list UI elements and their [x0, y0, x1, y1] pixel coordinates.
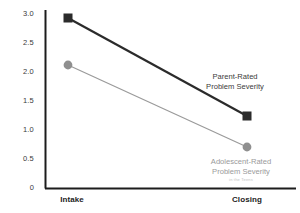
data-point-adolescent-closing [243, 143, 252, 152]
data-point-parent-closing [243, 112, 252, 121]
adolescent-annotation-line2: Problem Severity [190, 167, 292, 177]
y-tick-label-3.0: 3.0 [8, 10, 34, 18]
parent-annotation-line1: Parent-Rated [185, 72, 285, 82]
y-tick-label-1.5: 1.5 [8, 97, 34, 105]
y-tick-label-0: 0 [8, 184, 34, 192]
data-point-adolescent-intake [64, 61, 73, 70]
y-tick-label-1.0: 1.0 [8, 126, 34, 134]
data-point-parent-intake [64, 14, 73, 23]
y-tick-label-0.5: 0.5 [8, 155, 34, 163]
parent-rated-annotation: Parent-Rated Problem Severity [185, 72, 285, 92]
chart-container: 3.0 2.5 2.0 1.5 1.0 0.5 0 Intake Closing… [0, 0, 300, 213]
y-tick-label-2.5: 2.5 [8, 39, 34, 47]
x-tick-label-closing: Closing [217, 196, 277, 204]
adolescent-rated-annotation: Adolescent-Rated Problem Severity in the… [190, 157, 292, 183]
adolescent-annotation-line1: Adolescent-Rated [190, 157, 292, 167]
adolescent-annotation-subnote: in the Teens [190, 177, 292, 183]
parent-annotation-line2: Problem Severity [185, 82, 285, 92]
x-tick-label-intake: Intake [42, 196, 102, 204]
series-line-parent-rated [68, 18, 247, 116]
y-tick-label-2.0: 2.0 [8, 68, 34, 76]
